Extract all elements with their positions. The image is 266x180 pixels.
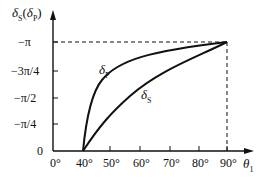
xtick-0: 0° [50,157,61,169]
ytick-neg-pi: −π [18,36,31,48]
y-axis-label: δS(δP) [12,6,42,23]
xtick-60: 60° [133,157,150,169]
delta-p-curve [83,42,227,151]
delta-s-label: δS [141,88,152,105]
y-ticks [53,42,58,124]
y-axis-arrow-icon [50,10,56,20]
xtick-50: 50° [103,157,120,169]
xtick-90: 90° [220,157,237,169]
delta-s-curve [83,42,227,151]
xtick-70: 70° [163,157,180,169]
ytick-neg-3pi-4: −3π/4 [11,65,39,77]
ytick-neg-pi-4: −π/4 [14,118,36,130]
x-axis-label: θ1 [243,157,253,174]
xtick-80: 80° [192,157,209,169]
x-ticks [110,146,227,151]
xtick-40: 40° [76,157,93,169]
x-axis-arrow-icon [244,148,254,154]
ytick-zero: 0 [37,145,43,157]
ytick-neg-pi-2: −π/2 [14,92,36,104]
delta-p-label: δP [99,63,110,80]
phase-shift-chart: δS(δP) −π −3π/4 −π/2 −π/4 0 0° 40° 50° 6… [0,0,266,180]
